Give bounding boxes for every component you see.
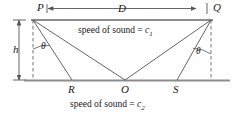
- point-label-O: O: [121, 84, 129, 95]
- caption-lower-subscript: 2: [141, 104, 145, 112]
- angle-label-theta-left: θ: [41, 42, 46, 52]
- point-label-P: P: [37, 2, 44, 13]
- caption-lower-medium: speed of sound = c2: [70, 100, 145, 112]
- caption-upper-subscript: 1: [149, 30, 153, 38]
- ray-Q-to-S: [177, 20, 211, 80]
- point-label-Q: Q: [213, 2, 221, 13]
- ray-P-to-R: [33, 20, 72, 80]
- dimension-label-h: h: [13, 44, 19, 55]
- caption-upper-medium: speed of sound = c1: [78, 26, 153, 38]
- point-label-R: R: [68, 84, 75, 95]
- caption-upper-text: speed of sound =: [78, 25, 145, 35]
- angle-label-theta-right: θ: [196, 47, 201, 57]
- dimension-label-D: D: [118, 3, 126, 14]
- caption-lower-text: speed of sound =: [70, 99, 137, 109]
- point-label-S: S: [173, 84, 179, 95]
- figure-root: P Q R O S D h θ θ speed of sound = c1 sp…: [0, 0, 232, 119]
